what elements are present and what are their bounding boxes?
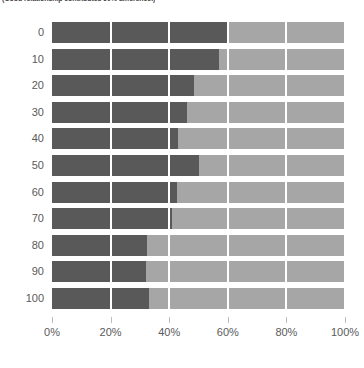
bar-row: [52, 288, 345, 309]
gridline: [110, 21, 112, 315]
x-axis-label: 100%: [322, 326, 364, 338]
bar-segment-dark: [52, 182, 177, 203]
bar-segment-dark: [52, 128, 178, 149]
bar-row: [52, 49, 345, 70]
x-axis-tick: [52, 317, 53, 323]
bar-segment-light: [187, 102, 345, 123]
x-axis-tick: [345, 317, 346, 323]
bar-row: [52, 208, 345, 229]
bar-row: [52, 261, 345, 282]
bar-row: [52, 22, 345, 43]
bar-row: [52, 128, 345, 149]
x-axis-tick: [228, 317, 229, 323]
x-axis-label: 20%: [88, 326, 134, 338]
bar-segment-dark: [52, 102, 187, 123]
bar-segment-dark: [52, 75, 194, 96]
bar-row: [52, 102, 345, 123]
bar-segment-dark: [52, 49, 219, 70]
bar-row: [52, 155, 345, 176]
gridline: [344, 21, 346, 315]
y-axis-label: 60: [0, 182, 44, 203]
y-axis-label: 90: [0, 261, 44, 282]
bar-segment-light: [149, 288, 345, 309]
y-axis-label: 100: [0, 288, 44, 309]
y-axis-label: 70: [0, 208, 44, 229]
bar-segment-light: [146, 261, 345, 282]
bar-segment-dark: [52, 235, 147, 256]
bar-segment-light: [194, 75, 345, 96]
x-axis-tick: [169, 317, 170, 323]
bar-segment-light: [172, 208, 345, 229]
y-axis-label: 20: [0, 75, 44, 96]
plot-area: [52, 21, 345, 315]
y-axis-label: 80: [0, 235, 44, 256]
y-axis-label: 0: [0, 22, 44, 43]
gridline: [285, 21, 287, 315]
y-axis-label: 50: [0, 155, 44, 176]
chart-title: (Good relationship contributes 60% diffe…: [2, 0, 155, 4]
bar-segment-light: [199, 155, 346, 176]
bar-row: [52, 75, 345, 96]
bar-segment-dark: [52, 22, 228, 43]
x-axis-label: 0%: [29, 326, 75, 338]
y-axis-label: 10: [0, 49, 44, 70]
bar-segment-dark: [52, 208, 172, 229]
bar-row: [52, 235, 345, 256]
x-axis-label: 60%: [205, 326, 251, 338]
bar-segment-light: [178, 128, 345, 149]
bar-segment-light: [219, 49, 345, 70]
bar-segment-dark: [52, 288, 149, 309]
bar-segment-light: [147, 235, 345, 256]
x-axis-label: 40%: [146, 326, 192, 338]
bar-segment-dark: [52, 155, 199, 176]
x-axis-tick: [286, 317, 287, 323]
bar-segment-light: [177, 182, 345, 203]
y-axis-label: 30: [0, 102, 44, 123]
gridline: [227, 21, 229, 315]
bar-row: [52, 182, 345, 203]
y-axis-label: 40: [0, 128, 44, 149]
x-axis-tick: [111, 317, 112, 323]
bar-segment-dark: [52, 261, 146, 282]
gridline: [168, 21, 170, 315]
x-axis-label: 80%: [263, 326, 309, 338]
